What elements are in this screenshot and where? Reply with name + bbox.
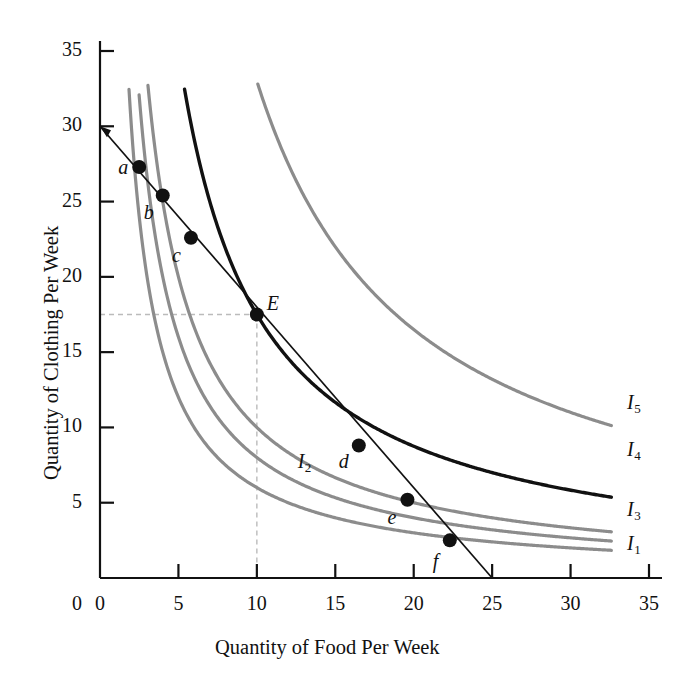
point-label-c: c xyxy=(172,244,181,267)
y-tick-30: 30 xyxy=(42,113,82,136)
indifference-curve-chart: 05101520253035 05101520253035 I1I2I3I4I5… xyxy=(0,0,690,683)
x-tick-25: 25 xyxy=(472,592,512,615)
x-axis-title: Quantity of Food Per Week xyxy=(215,636,440,659)
point-label-b: b xyxy=(144,201,154,224)
point-label-a: a xyxy=(118,156,128,179)
x-tick-20: 20 xyxy=(394,592,434,615)
x-tick-10: 10 xyxy=(237,592,277,615)
data-point-c xyxy=(184,231,198,245)
indifference-curve-I1 xyxy=(129,89,611,550)
curve-label-I2: I2 xyxy=(298,450,311,473)
indifference-curve-I2 xyxy=(139,95,611,541)
indifference-curve-I3 xyxy=(148,85,611,531)
curve-label-I4: I4 xyxy=(627,438,640,461)
budget-line-arrowhead xyxy=(100,126,111,137)
x-tick-35: 35 xyxy=(629,592,669,615)
indifference-curves xyxy=(129,84,611,550)
point-label-d: d xyxy=(339,450,349,473)
data-point-f xyxy=(443,533,457,547)
data-point-a xyxy=(132,160,146,174)
y-tick-35: 35 xyxy=(42,38,82,61)
indifference-curve-I5 xyxy=(258,84,612,426)
y-tick-25: 25 xyxy=(42,189,82,212)
x-tick-30: 30 xyxy=(551,592,591,615)
point-label-f: f xyxy=(433,550,439,573)
data-point-e xyxy=(400,493,414,507)
data-point-E xyxy=(250,308,264,322)
curve-label-I5: I5 xyxy=(627,391,640,414)
data-point-b xyxy=(156,189,170,203)
axes xyxy=(100,41,662,578)
y-tick-5: 5 xyxy=(42,490,82,513)
x-tick-0: 0 xyxy=(80,592,120,615)
y-tick-0: 0 xyxy=(42,592,82,615)
curve-label-I1: I1 xyxy=(627,532,640,555)
y-axis-title: Quantity of Clothing Per Week xyxy=(40,226,63,480)
plot-canvas xyxy=(0,0,690,683)
curve-label-I3: I3 xyxy=(627,498,640,521)
point-label-e: e xyxy=(387,506,396,529)
indifference-curve-I4 xyxy=(185,89,612,497)
data-point-d xyxy=(352,438,366,452)
x-tick-5: 5 xyxy=(158,592,198,615)
x-tick-15: 15 xyxy=(315,592,355,615)
data-points xyxy=(132,160,457,547)
equilibrium-guide-lines xyxy=(100,315,257,579)
point-label-E: E xyxy=(267,292,279,315)
